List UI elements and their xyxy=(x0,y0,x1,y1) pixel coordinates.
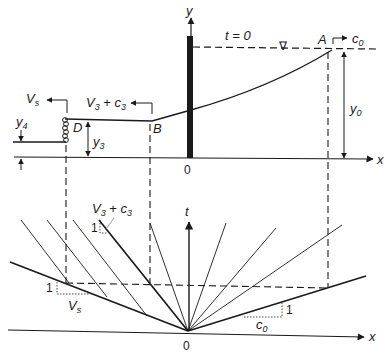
vs-slope-triangle xyxy=(57,282,90,294)
c0-slope-label: c0 xyxy=(256,317,268,334)
top-origin-label: 0 xyxy=(184,163,191,177)
dam-break-characteristics-diagram: x y 0 t = 0 ∇ A B D c0 V3 + c3 xyxy=(0,0,388,359)
uniform-region-characteristics xyxy=(21,220,147,316)
vs-label: Vs xyxy=(26,91,40,108)
c0-slope-triangle xyxy=(244,303,282,317)
bottom-origin-label: 0 xyxy=(183,339,190,353)
v3c3-slope-label: V3 + c3 xyxy=(92,201,132,218)
point-B-label: B xyxy=(153,121,162,136)
c0-label: c0 xyxy=(352,31,364,48)
v3c3-slope-rise: 1 xyxy=(91,221,98,235)
characteristic-fan xyxy=(150,223,342,331)
vs-slope-label: Vs xyxy=(68,298,82,315)
top-y-axis-label: y xyxy=(185,3,194,18)
point-D-label: D xyxy=(73,120,82,135)
top-x-axis xyxy=(14,157,373,159)
bottom-panel: x t 0 c0 1 Vs 1 1 xyxy=(8,201,376,353)
vs-arrow xyxy=(47,100,67,113)
rarefaction-surface-curve xyxy=(152,50,332,121)
water-surface-symbol: ∇ xyxy=(278,39,288,53)
c0-slope-rise: 1 xyxy=(286,303,293,317)
bottom-x-axis-label: x xyxy=(368,329,376,344)
time-zero-label: t = 0 xyxy=(225,28,251,43)
dam-wall xyxy=(187,36,193,158)
top-x-axis-label: x xyxy=(376,152,384,167)
projection-lines xyxy=(66,52,328,288)
point-A-label: A xyxy=(317,32,327,47)
c0-arrow xyxy=(333,38,347,44)
y3-label: y3 xyxy=(92,134,105,151)
t-axis-label: t xyxy=(185,204,190,219)
surge-front xyxy=(63,118,69,143)
v3c3-leader xyxy=(106,218,114,229)
vs-slope-rise: 1 xyxy=(46,281,53,295)
c0-characteristic xyxy=(188,276,366,331)
y0-label: y0 xyxy=(349,101,362,118)
v3c3-label: V3 + c3 xyxy=(86,95,126,112)
y4-label: y4 xyxy=(15,114,28,131)
v3c3-arrow xyxy=(131,103,152,114)
